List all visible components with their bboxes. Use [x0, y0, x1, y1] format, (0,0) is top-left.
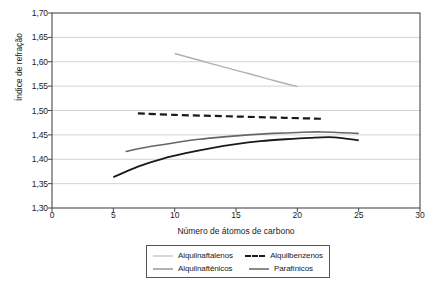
y-axis-tick-label: 1,70	[32, 8, 48, 18]
legend-item-alquilnaftalenos: Alquilnaftalenos	[153, 251, 245, 260]
x-axis-tick-label: 25	[354, 210, 363, 220]
y-axis-tick-label: 1,65	[32, 32, 48, 42]
x-axis-tick-labels: 051015202530	[0, 210, 435, 224]
legend-line-swatch-icon	[245, 252, 265, 260]
y-axis-tick-label: 1,35	[32, 179, 48, 189]
y-axis-tick-label: 1,40	[32, 154, 48, 164]
legend-item-parafinicos: Parafínicos	[249, 264, 313, 273]
series-line-0	[175, 53, 298, 86]
series-line-1	[138, 113, 322, 118]
y-axis-title: Índice de refração	[14, 12, 24, 122]
y-axis-tick-label: 1,50	[32, 106, 48, 116]
series-line-3	[113, 137, 358, 177]
y-axis-tick-label: 1,60	[32, 57, 48, 67]
legend-line-swatch-icon	[153, 265, 173, 273]
y-axis-tick-label: 1,55	[32, 81, 48, 91]
x-axis-tick-label: 20	[293, 210, 302, 220]
legend-label: Alquilnaftênicos	[178, 264, 232, 273]
legend-line-swatch-icon	[249, 265, 269, 273]
x-axis-tick-label: 5	[111, 210, 116, 220]
legend-line-swatch-icon	[153, 252, 173, 260]
legend-row: Alquilnaftalenos Alquilbenzenos	[153, 249, 323, 262]
chart-plot-area	[0, 0, 435, 285]
x-axis-tick-label: 30	[415, 210, 424, 220]
y-axis-tick-label: 1,45	[32, 130, 48, 140]
legend-item-alquilbenzenos: Alquilbenzenos	[245, 251, 323, 260]
x-axis-tick-label: 15	[231, 210, 240, 220]
legend-label: Alquilbenzenos	[270, 251, 323, 260]
x-axis-tick-label: 10	[170, 210, 179, 220]
legend-label: Alquilnaftalenos	[178, 251, 233, 260]
chart-legend: Alquilnaftalenos Alquilbenzenos Alquilna…	[146, 245, 330, 278]
x-axis-title: Número de átomos de carbono	[52, 226, 420, 236]
refractive-index-chart: 1,301,351,401,451,501,551,601,651,70 051…	[0, 0, 435, 285]
legend-label: Parafínicos	[274, 264, 313, 273]
x-axis-tick-label: 0	[50, 210, 55, 220]
legend-item-alquilnaftenicos: Alquilnaftênicos	[153, 264, 249, 273]
legend-row: Alquilnaftênicos Parafínicos	[153, 262, 323, 275]
